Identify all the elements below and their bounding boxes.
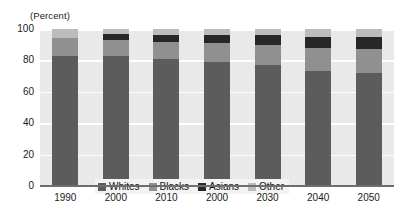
plot-area: WhitesBlacksAsiansOther [40,29,394,186]
legend-item-label: Other [259,182,284,192]
bar-segment-whites [356,73,382,186]
legend-swatch-icon [149,183,157,191]
y-axis-tick-label: 80 [23,55,34,65]
bar-segment-asians [305,37,331,48]
bar-segment-whites [103,56,129,186]
bar-segment-asians [255,35,281,44]
x-axis-tick-label: 2000 [206,192,228,203]
y-axis-tick-label: 20 [23,150,34,160]
bar-segment-blacks [153,42,179,59]
y-axis-unit-caption: (Percent) [30,10,70,21]
y-axis-tick-label: 0 [28,181,34,191]
legend-item-whites: Whites [98,182,140,192]
x-axis-tick-label: 2000 [105,192,127,203]
bar-2000-3 [204,29,230,186]
bar-segment-other [305,29,331,37]
legend-item-label: Whites [109,182,140,192]
legend-item-other: Other [248,182,284,192]
bar-segment-blacks [255,45,281,65]
legend-item-blacks: Blacks [149,182,189,192]
bar-2000-1 [103,29,129,186]
bar-segment-blacks [204,43,230,62]
stacked-bar-chart: (Percent) 020406080100 WhitesBlacksAsian… [0,0,408,220]
bar-segment-blacks [52,38,78,55]
bar-segment-other [52,29,78,38]
legend-swatch-icon [248,183,256,191]
bar-segment-other [356,29,382,37]
legend-item-label: Blacks [160,182,189,192]
bar-segment-whites [305,71,331,186]
bar-2030-4 [255,29,281,186]
legend-item-label: Asians [209,182,239,192]
y-axis-tick-label: 100 [17,24,34,34]
x-axis-tick-label: 2040 [307,192,329,203]
legend-swatch-icon [98,183,106,191]
y-axis-tick-label: 40 [23,118,34,128]
x-axis-tick-label: 2050 [358,192,380,203]
bar-2040-5 [305,29,331,186]
x-axis-tick-label: 2010 [155,192,177,203]
x-axis-tick-label: 1990 [54,192,76,203]
x-axis-line [40,185,394,187]
bar-2050-6 [356,29,382,186]
x-axis-tick-labels: 1990200020102000203020402050 [40,192,394,208]
bar-segment-whites [153,59,179,186]
bar-2010-2 [153,29,179,186]
bar-segment-whites [255,65,281,186]
legend-swatch-icon [198,183,206,191]
bar-segment-blacks [305,48,331,72]
bar-segment-asians [356,37,382,50]
bar-segment-blacks [103,40,129,56]
y-axis-tick-label: 60 [23,87,34,97]
legend-item-asians: Asians [198,182,239,192]
x-axis-tick-label: 2030 [256,192,278,203]
bar-segment-whites [204,62,230,186]
bar-segment-blacks [356,49,382,73]
bar-segment-asians [204,35,230,43]
bar-segment-whites [52,56,78,186]
y-axis-tick-labels: 020406080100 [0,24,38,186]
bar-1990-0 [52,29,78,186]
